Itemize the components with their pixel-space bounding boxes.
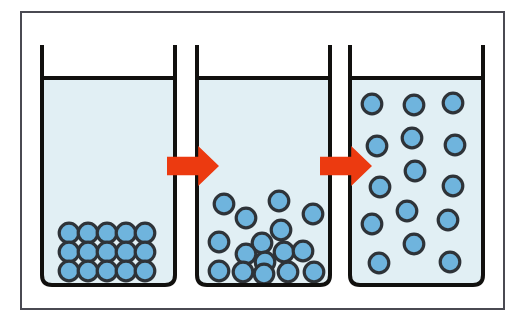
diagram-canvas [0, 0, 525, 329]
particle [135, 261, 155, 281]
particle [116, 242, 136, 262]
particle [293, 241, 313, 261]
particle [97, 242, 117, 262]
states-of-matter-diagram: States of Matter: Solid to Liquid to Gas… [0, 0, 525, 329]
particle [233, 262, 253, 282]
particle [440, 252, 460, 272]
particle [78, 242, 98, 262]
particle [405, 161, 425, 181]
particle [59, 261, 79, 281]
particle [269, 191, 289, 211]
particle [445, 135, 465, 155]
beakers-layer [42, 45, 483, 285]
particle [59, 223, 79, 243]
particle [254, 264, 274, 284]
particle [116, 223, 136, 243]
particle [404, 234, 424, 254]
particle [370, 177, 390, 197]
particle [271, 220, 291, 240]
particle [362, 214, 382, 234]
particle [443, 176, 463, 196]
particle [367, 136, 387, 156]
particle [397, 201, 417, 221]
particle [362, 94, 382, 114]
particle [404, 95, 424, 115]
particle [236, 244, 256, 264]
particle [78, 223, 98, 243]
beaker-solid [42, 45, 175, 285]
particle [304, 262, 324, 282]
particle [78, 261, 98, 281]
particle [209, 232, 229, 252]
particle [135, 223, 155, 243]
particle-group [59, 223, 155, 281]
particle [116, 261, 136, 281]
particle [303, 204, 323, 224]
particle [59, 242, 79, 262]
particle [278, 262, 298, 282]
particle [274, 242, 294, 262]
particle [214, 194, 234, 214]
particle [236, 208, 256, 228]
particle [97, 223, 117, 243]
particle [443, 93, 463, 113]
particle [97, 261, 117, 281]
particle [209, 261, 229, 281]
particle [438, 210, 458, 230]
particle [402, 128, 422, 148]
particle [369, 253, 389, 273]
particle [135, 242, 155, 262]
